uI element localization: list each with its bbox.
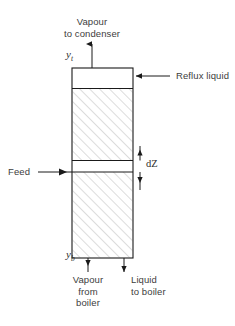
dz-dimension (137, 146, 142, 190)
column-body (72, 68, 133, 258)
vapour-from-boiler-label: Vapourfromboiler (52, 274, 124, 309)
feed-label: Feed (8, 166, 30, 178)
dz-lower-arrowhead (137, 177, 142, 183)
vapour-out-bottom-arrow (85, 258, 90, 272)
stripping-packed-section (73, 172, 133, 258)
y-top-variable: yt (66, 48, 73, 63)
reflux-liquid-label: Reflux liquid (176, 70, 229, 82)
feed-in-arrow (38, 169, 72, 176)
dz-label: dZ (146, 158, 158, 169)
rectifying-packed-section (73, 89, 133, 161)
y-bottom-variable: yb (66, 248, 75, 263)
liquid-to-boiler-label: Liquidto boiler (131, 274, 211, 297)
vapour-to-condenser-label: Vapourto condenser (39, 16, 145, 39)
dz-upper-arrowhead (137, 150, 142, 156)
liquid-out-bottom-arrow (121, 258, 126, 272)
